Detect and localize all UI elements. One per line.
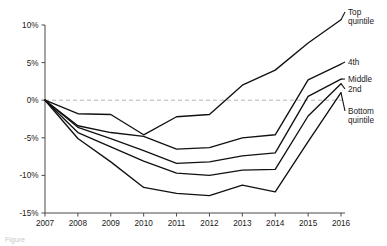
series-line-top-quintile (45, 20, 341, 135)
y-tick-label: -10% (19, 171, 38, 180)
x-tick-label: 2008 (69, 219, 88, 228)
series-label-4th-line1: 4th (348, 58, 360, 67)
figure-container: 10%5%0%-5%-10%-15% 200720082009201020112… (0, 0, 387, 246)
series-label-2nd-line1: 2nd (348, 85, 362, 94)
series-label-2nd-leader (341, 84, 345, 89)
series-label-top-quintile: Topquintile (348, 8, 374, 26)
y-tick-label: -5% (24, 134, 39, 143)
series-label-top-quintile-line2: quintile (348, 17, 374, 26)
figure-caption: Figure (5, 236, 25, 243)
series-label-bottom-quintile-line2: quintile (348, 116, 374, 125)
series-label-middle: Middle (348, 75, 373, 84)
x-axis: 2007200820092010201120122013201420152016 (36, 213, 351, 228)
y-tick-label: -15% (19, 209, 38, 218)
x-tick-label: 2014 (266, 219, 285, 228)
series-label-4th-leader (341, 62, 345, 64)
x-tick-label: 2007 (36, 219, 55, 228)
series-lines (45, 20, 341, 196)
x-tick-label: 2012 (200, 219, 219, 228)
series-label-top-quintile-leader (341, 12, 345, 20)
series-label-2nd: 2nd (348, 85, 362, 94)
y-tick-label: 5% (27, 59, 39, 68)
series-line-middle (45, 79, 341, 163)
series-labels: Topquintile4thMiddle2ndBottomquintile (341, 8, 374, 125)
x-tick-label: 2013 (233, 219, 252, 228)
series-label-bottom-quintile-leader (341, 93, 345, 111)
series-label-bottom-quintile: Bottomquintile (348, 107, 374, 125)
y-tick-label: 0% (27, 96, 39, 105)
series-line-2nd (45, 84, 341, 176)
x-tick-label: 2011 (168, 219, 186, 228)
x-tick-label: 2015 (299, 219, 318, 228)
series-line-bottom-quintile (45, 93, 341, 196)
line-chart: 10%5%0%-5%-10%-15% 200720082009201020112… (0, 0, 387, 246)
x-tick-label: 2010 (135, 219, 154, 228)
y-tick-label: 10% (22, 21, 38, 30)
series-line-4th (45, 64, 341, 149)
series-label-4th: 4th (348, 58, 360, 67)
x-tick-label: 2016 (332, 219, 351, 228)
x-tick-label: 2009 (102, 219, 121, 228)
y-axis: 10%5%0%-5%-10%-15% (19, 21, 45, 218)
series-label-middle-line1: Middle (348, 75, 373, 84)
